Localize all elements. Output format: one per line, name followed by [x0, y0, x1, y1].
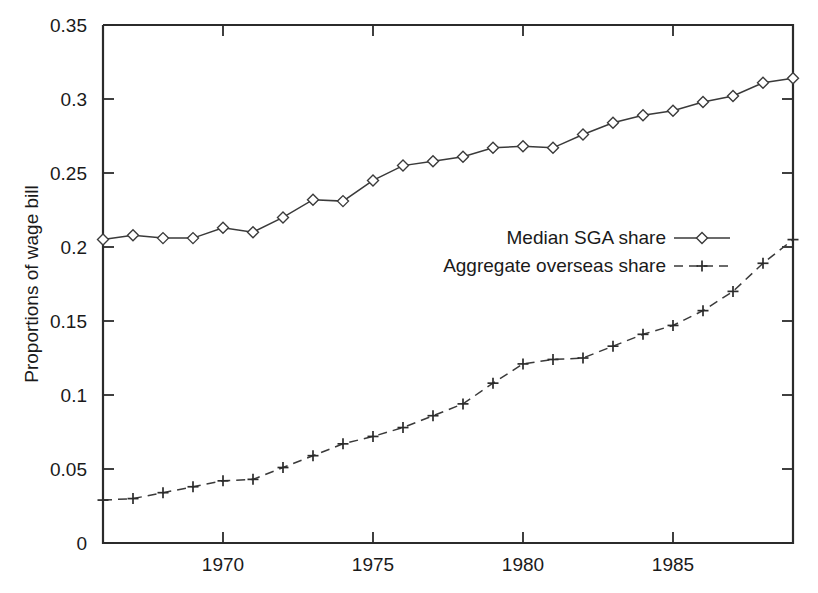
data-point-marker [308, 194, 319, 205]
data-point-marker [758, 77, 769, 88]
y-axis-ticks [103, 25, 793, 543]
data-point-marker [788, 234, 799, 245]
data-point-marker [518, 141, 529, 152]
data-point-marker [278, 462, 289, 473]
y-tick-label: 0.2 [61, 237, 87, 258]
legend-label-1: Aggregate overseas share [443, 255, 666, 276]
data-point-marker [608, 117, 619, 128]
data-point-marker [218, 222, 229, 233]
data-point-marker [368, 175, 379, 186]
y-tick-label: 0.25 [50, 163, 87, 184]
chart-figure: 00.050.10.150.20.250.30.35 1970197519801… [0, 0, 818, 593]
data-point-marker [518, 358, 529, 369]
data-point-marker [488, 378, 499, 389]
data-point-marker [668, 320, 679, 331]
data-point-marker [668, 105, 679, 116]
data-point-marker [638, 110, 649, 121]
data-point-marker [638, 329, 649, 340]
data-point-marker [128, 493, 139, 504]
data-point-marker [698, 305, 709, 316]
data-series-group [103, 78, 793, 500]
data-point-marker [98, 495, 109, 506]
data-point-marker [548, 354, 559, 365]
y-tick-label: 0.35 [50, 15, 87, 36]
y-tick-label: 0.3 [61, 89, 87, 110]
y-axis-label: Proportions of wage bill [21, 185, 42, 383]
data-point-marker [458, 151, 469, 162]
data-point-marker [128, 230, 139, 241]
data-point-marker [158, 233, 169, 244]
data-point-marker [368, 431, 379, 442]
plot-frame [103, 25, 793, 543]
legend-sample-marker-1 [697, 261, 708, 272]
x-axis-tick-labels: 1970197519801985 [202, 554, 694, 575]
line-chart-canvas: 00.050.10.150.20.250.30.35 1970197519801… [0, 0, 818, 593]
x-tick-label: 1970 [202, 554, 244, 575]
y-tick-label: 0 [76, 533, 87, 554]
data-point-marker [338, 438, 349, 449]
data-point-marker [158, 487, 169, 498]
chart-legend: Median SGA shareAggregate overseas share [443, 227, 730, 276]
data-point-marker [428, 156, 439, 167]
series-line-0 [103, 78, 793, 239]
y-tick-label: 0.15 [50, 311, 87, 332]
x-tick-label: 1980 [502, 554, 544, 575]
data-point-marker [578, 353, 589, 364]
data-point-marker [578, 129, 589, 140]
data-point-marker [248, 474, 259, 485]
x-axis-ticks [223, 25, 673, 543]
data-markers-group [98, 73, 799, 506]
data-point-marker [788, 73, 799, 84]
data-point-marker [428, 410, 439, 421]
data-point-marker [278, 212, 289, 223]
data-point-marker [188, 233, 199, 244]
data-point-marker [698, 96, 709, 107]
data-point-marker [338, 196, 349, 207]
y-axis-label-text: Proportions of wage bill [21, 185, 42, 383]
data-point-marker [188, 481, 199, 492]
y-axis-tick-labels: 00.050.10.150.20.250.30.35 [50, 15, 87, 554]
data-point-marker [248, 227, 259, 238]
data-point-marker [458, 398, 469, 409]
y-tick-label: 0.1 [61, 385, 87, 406]
data-point-marker [98, 234, 109, 245]
data-point-marker [398, 160, 409, 171]
data-point-marker [308, 450, 319, 461]
data-point-marker [488, 142, 499, 153]
data-point-marker [608, 341, 619, 352]
y-tick-label: 0.05 [50, 459, 87, 480]
data-point-marker [548, 142, 559, 153]
x-tick-label: 1975 [352, 554, 394, 575]
series-line-1 [103, 240, 793, 500]
data-point-marker [728, 91, 739, 102]
data-point-marker [398, 422, 409, 433]
x-tick-label: 1985 [652, 554, 694, 575]
data-point-marker [218, 475, 229, 486]
legend-sample-marker-0 [697, 233, 708, 244]
legend-label-0: Median SGA share [507, 227, 666, 248]
